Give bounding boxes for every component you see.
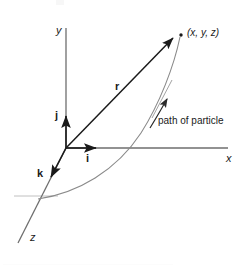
point-coordinates-label: (x, y, z) — [187, 28, 219, 38]
top-artifact — [56, 0, 64, 5]
unit-vector-j-label: j — [55, 110, 58, 121]
unit-vector-i-label: i — [86, 153, 89, 164]
path-label-leader-line — [152, 80, 172, 118]
x-axis-label: x — [226, 153, 232, 164]
diagram-canvas — [0, 0, 245, 272]
bottom-artifact-rule — [3, 264, 173, 265]
y-axis-label: y — [56, 25, 62, 36]
point-marker — [179, 33, 182, 36]
path-of-particle-label: path of particle — [158, 116, 224, 126]
unit-vector-k-arrow — [51, 148, 66, 177]
unit-vector-k-label: k — [37, 168, 43, 179]
z-axis-label: z — [30, 232, 36, 243]
position-vector-r-arrow — [66, 38, 173, 148]
position-vector-r-label: r — [115, 81, 119, 92]
vector-diagram: y x z i j k r (x, y, z) path of particle — [0, 0, 245, 272]
